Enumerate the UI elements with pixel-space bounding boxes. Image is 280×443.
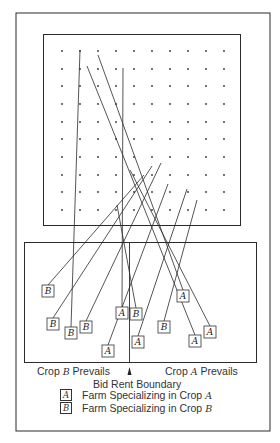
land-parcel-dot (61, 174, 63, 176)
farm-crop-b: B (47, 318, 59, 330)
land-parcel-dots (61, 50, 225, 211)
land-parcel-dot (151, 50, 153, 52)
farm-boxes: BBBBAABABAAA (42, 285, 216, 357)
parcel-connector-line (164, 200, 197, 321)
land-parcel-dot (187, 191, 189, 193)
land-parcel-dot (187, 138, 189, 140)
land-parcel-dot (79, 103, 81, 105)
land-parcel-dot (79, 156, 81, 158)
land-parcel-dot (187, 174, 189, 176)
land-parcel-dot (205, 85, 207, 87)
land-parcel-dot (169, 191, 171, 193)
land-parcel-dot (205, 209, 207, 211)
land-parcel-dot (61, 103, 63, 105)
land-parcel-dot (223, 209, 225, 211)
crop-a-suffix: Prevails (198, 365, 238, 377)
parcel-connector-line (71, 50, 80, 327)
land-parcel-dot (79, 209, 81, 211)
crop-a-prefix: Crop (165, 365, 191, 377)
land-parcel-dot (169, 103, 171, 105)
land-parcel-dot (151, 68, 153, 70)
land-parcel-dot (169, 209, 171, 211)
crop-b-suffix: Prevails (70, 365, 110, 377)
land-parcel-dot (223, 156, 225, 158)
land-parcel-dot (187, 50, 189, 52)
land-parcel-dot (151, 138, 153, 140)
parcel-connector-line (98, 55, 183, 290)
land-parcel-dot (151, 191, 153, 193)
farm-crop-letter: A (104, 346, 112, 356)
land-parcel-dot (61, 50, 63, 52)
land-parcel-dot (169, 138, 171, 140)
land-parcel-dot (61, 156, 63, 158)
farm-crop-letter: B (49, 319, 57, 329)
land-parcel-dot (115, 209, 117, 211)
land-parcel-dot (133, 85, 135, 87)
land-parcel-dot (223, 138, 225, 140)
land-parcel-dot (97, 138, 99, 140)
farm-crop-a: A (204, 326, 216, 338)
land-parcel-dot (97, 191, 99, 193)
land-parcel-dot (205, 50, 207, 52)
land-parcel-dot (61, 121, 63, 123)
parcel-connector-line (117, 205, 136, 308)
farm-crop-letter: A (191, 336, 199, 346)
land-parcel-dot (97, 121, 99, 123)
land-parcel-dot (187, 156, 189, 158)
land-parcel-dot (133, 121, 135, 123)
farm-a-symbol-icon: A (60, 389, 72, 401)
land-parcel-dot (205, 156, 207, 158)
parcel-connector-line (130, 170, 210, 326)
farm-crop-letter: A (118, 308, 126, 318)
land-parcel-dot (61, 68, 63, 70)
farm-crop-a: A (177, 290, 189, 302)
legend-crop-a: A Farm Specializing in Crop A (60, 389, 212, 401)
legend-crop-b: B Farm Specializing in Crop B (60, 402, 212, 414)
land-parcel-dot (79, 191, 81, 193)
farm-crop-letter: B (44, 286, 52, 296)
land-parcel-dot (115, 85, 117, 87)
land-parcel-dot (151, 85, 153, 87)
land-parcel-dot (169, 156, 171, 158)
land-parcel-dot (79, 85, 81, 87)
land-parcel-dot (187, 121, 189, 123)
land-parcel-dot (133, 50, 135, 52)
land-parcel-dot (205, 191, 207, 193)
farm-crop-letter: B (160, 322, 168, 332)
land-parcel-dot (205, 174, 207, 176)
land-parcel-dot (97, 209, 99, 211)
land-parcel-dot (205, 121, 207, 123)
land-parcel-dot (223, 50, 225, 52)
land-parcel-dot (169, 174, 171, 176)
land-parcel-dot (115, 156, 117, 158)
farm-crop-letter: A (179, 291, 187, 301)
land-parcel-dot (205, 138, 207, 140)
land-parcel-dot (223, 191, 225, 193)
land-parcel-dot (223, 103, 225, 105)
legend-crop-b-prefix: Farm Specializing in Crop (82, 402, 202, 414)
crop-a-prevails-label: Crop A Prevails (165, 365, 238, 377)
land-parcel-dot (223, 68, 225, 70)
farm-crop-letter: B (82, 322, 90, 332)
land-parcel-dot (169, 121, 171, 123)
land-parcel-dot (115, 174, 117, 176)
land-parcel-dot (151, 103, 153, 105)
land-parcel-dot (97, 85, 99, 87)
land-parcel-dot (115, 121, 117, 123)
land-parcel-dot (223, 121, 225, 123)
land-parcel-dot (97, 50, 99, 52)
farm-crop-letter: B (132, 309, 140, 319)
land-parcel-dot (151, 156, 153, 158)
boundary-arrow-icon (128, 367, 132, 375)
farm-crop-a: A (102, 345, 114, 357)
legend-crop-b-letter: B (205, 403, 212, 414)
parcel-connector-line (122, 68, 123, 307)
crop-b-prevails-label: Crop B Prevails (37, 365, 110, 377)
legend-crop-a-letter: A (205, 390, 212, 401)
land-parcel-dot (223, 174, 225, 176)
farm-crop-a: A (116, 307, 128, 319)
land-parcel-dot (61, 191, 63, 193)
land-grid-box (44, 35, 241, 226)
land-parcel-dot (79, 138, 81, 140)
land-parcel-dot (205, 103, 207, 105)
